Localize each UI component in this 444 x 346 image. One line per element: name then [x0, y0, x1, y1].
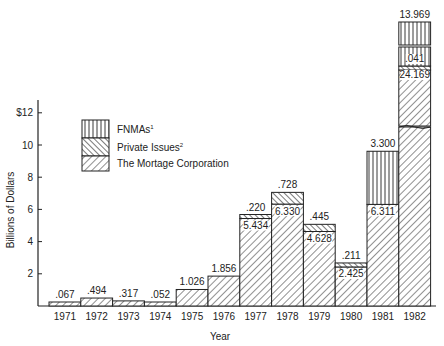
- value-label: .445: [310, 211, 330, 222]
- value-label: 2.425: [339, 268, 364, 279]
- legend-label: The Mortage Corporation: [117, 158, 229, 169]
- value-label: .067: [55, 289, 75, 300]
- bar-1981: [367, 151, 399, 306]
- x-tick-label: 1982: [404, 311, 427, 322]
- y-tick-label: 4: [27, 236, 33, 247]
- legend-label: Private Issues2: [117, 142, 184, 153]
- x-tick-label: 1977: [245, 311, 268, 322]
- x-tick-label: 1981: [372, 311, 395, 322]
- value-label: 6.330: [275, 206, 300, 217]
- value-label: .052: [151, 289, 171, 300]
- segment-0: [81, 298, 113, 306]
- bar-1971: [49, 302, 81, 306]
- x-tick-label: 1975: [181, 311, 204, 322]
- legend-swatch: [82, 120, 109, 138]
- legend: FNMAs1Private Issues2The Mortage Corpora…: [82, 120, 229, 171]
- x-tick-label: 1976: [213, 311, 236, 322]
- value-label: .317: [119, 288, 139, 299]
- y-tick-label: $12: [16, 107, 33, 118]
- bar-1973: [113, 301, 145, 306]
- segment-0: [144, 302, 176, 306]
- bar-1976: [208, 276, 240, 306]
- value-label: .041: [405, 53, 425, 64]
- segment-0: [272, 204, 304, 306]
- segment-0: [240, 219, 272, 306]
- segment-0: [176, 289, 208, 306]
- value-label: .494: [87, 285, 107, 296]
- segment-1: [335, 263, 367, 267]
- y-tick-label: 6: [27, 204, 33, 215]
- value-label: 5.434: [243, 220, 268, 231]
- stacked-bar-chart: 246810$12Billions of DollarsYear19711972…: [0, 0, 444, 346]
- segment-0: [367, 204, 399, 306]
- value-label: 1.026: [180, 276, 205, 287]
- segment-1: [272, 192, 304, 204]
- chart-canvas: 246810$12Billions of DollarsYear19711972…: [0, 0, 444, 346]
- bar-1974: [144, 302, 176, 306]
- y-tick-label: 2: [27, 268, 33, 279]
- bar-1972: [81, 298, 113, 306]
- legend-swatch: [82, 156, 109, 171]
- y-tick-label: 10: [22, 140, 34, 151]
- x-tick-label: 1980: [340, 311, 363, 322]
- x-tick-label: 1979: [308, 311, 331, 322]
- segment-0: [113, 301, 145, 306]
- value-label: .211: [342, 250, 361, 261]
- segment-1: [240, 215, 272, 219]
- bar-1975: [176, 289, 208, 306]
- value-label: 3.300: [370, 138, 395, 149]
- y-axis-title: Billions of Dollars: [5, 172, 16, 249]
- y-tick-label: 8: [27, 172, 33, 183]
- value-label: .220: [246, 202, 266, 213]
- x-tick-label: 1972: [86, 311, 109, 322]
- x-tick-label: 1971: [54, 311, 77, 322]
- segment-1: [303, 224, 335, 231]
- value-label: 24.169: [399, 69, 430, 80]
- legend-swatch: [82, 138, 109, 156]
- segment-2: [367, 151, 399, 204]
- x-axis-title: Year: [210, 331, 231, 342]
- x-tick-label: 1973: [117, 311, 140, 322]
- value-label: 4.628: [307, 233, 332, 244]
- legend-label: FNMAs1: [117, 124, 154, 135]
- value-label: 6.311: [371, 206, 396, 217]
- segment-0: [49, 302, 81, 306]
- x-tick-label: 1974: [149, 311, 172, 322]
- x-tick-label: 1978: [276, 311, 299, 322]
- bar-1982: [399, 22, 431, 306]
- segment-0: [208, 276, 240, 306]
- value-label: .728: [278, 179, 298, 190]
- value-label: 13.969: [399, 9, 430, 20]
- value-label: 1.856: [211, 263, 236, 274]
